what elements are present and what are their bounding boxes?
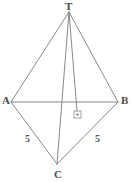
vertex-label-B: B	[121, 95, 128, 106]
vertex-label-T: T	[65, 1, 72, 12]
vertex-label-A: A	[2, 95, 10, 106]
side-length-label-AC: 5	[25, 134, 30, 144]
edge-A-C	[11, 102, 57, 164]
geometry-figure: T A B C 5 5	[0, 0, 132, 182]
right-angle-marker-icon	[74, 111, 81, 118]
edge-T-C	[57, 12, 69, 164]
side-length-label-CB: 5	[95, 134, 100, 144]
figure-canvas	[0, 0, 132, 182]
altitude-T-to-foot	[69, 12, 77, 111]
edge-T-B	[69, 12, 118, 102]
vertex-label-C: C	[54, 169, 62, 180]
edge-C-B	[57, 102, 118, 164]
edge-T-A	[11, 12, 69, 102]
